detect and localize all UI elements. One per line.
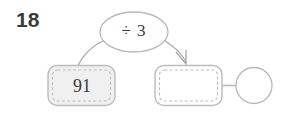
input-connector-curve	[78, 41, 103, 66]
arrowhead-icon	[176, 50, 186, 64]
operation-label: ÷ 3	[100, 21, 168, 41]
function-machine-diagram	[0, 0, 284, 116]
answer-circle-outline[interactable]	[236, 68, 272, 104]
output-connector-curve	[165, 41, 186, 62]
result-box-outline[interactable]	[155, 66, 222, 106]
worksheet-problem-screenshot: 18 ÷ 3 91	[0, 0, 284, 116]
start-value-label: 91	[48, 76, 116, 97]
